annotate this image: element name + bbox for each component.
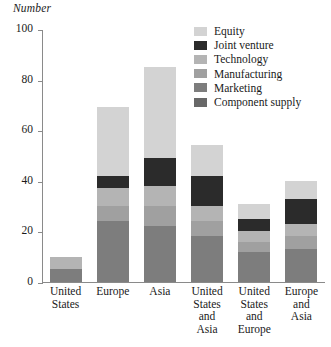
y-axis-tick-label: 20 — [22, 224, 34, 236]
legend-item: Technology — [194, 52, 301, 66]
y-axis-tick: 80 — [38, 81, 43, 82]
y-axis-tick-label: 40 — [22, 174, 34, 186]
legend-label: Technology — [214, 53, 268, 65]
bar-stack — [238, 204, 270, 282]
legend-label: Component supply — [214, 96, 301, 108]
bar-segment — [238, 252, 270, 282]
bar-segment — [285, 236, 317, 249]
bar-segment — [285, 224, 317, 237]
x-axis-category-label: United States and Asia — [184, 285, 231, 335]
y-axis-tick: 20 — [38, 232, 43, 233]
bar-segment — [285, 199, 317, 224]
x-axis-category-label: United States and Europe — [231, 285, 278, 335]
bar-segment — [144, 186, 176, 206]
y-axis-tick: 40 — [38, 182, 43, 183]
legend-swatch-icon — [194, 41, 207, 50]
y-axis-tick: 100 — [38, 30, 43, 31]
y-axis-line — [42, 30, 43, 283]
bar-stack — [144, 67, 176, 282]
y-axis-tick: 0 — [38, 283, 43, 284]
bar-segment — [144, 67, 176, 158]
chart-legend: EquityJoint ventureTechnologyManufacturi… — [194, 24, 301, 109]
bar-segment — [191, 145, 223, 175]
x-axis-category-label: Asia — [136, 285, 183, 298]
y-axis-tick-label: 100 — [16, 22, 33, 34]
x-axis-category-label: Europe and Asia — [278, 285, 325, 323]
stacked-bar-chart: Number 020406080100 United StatesEuropeA… — [0, 0, 331, 347]
legend-item: Marketing — [194, 81, 301, 95]
legend-swatch-icon — [194, 83, 207, 92]
legend-swatch-icon — [194, 55, 207, 64]
legend-label: Joint venture — [214, 39, 274, 51]
y-axis-tick-label: 80 — [22, 73, 34, 85]
legend-item: Component supply — [194, 95, 301, 109]
bar-segment — [238, 242, 270, 252]
y-axis-tick-label: 0 — [27, 275, 33, 287]
x-axis-category-label: United States — [42, 285, 89, 310]
legend-label: Manufacturing — [214, 68, 282, 80]
bar-stack — [97, 107, 129, 282]
bar-segment — [97, 188, 129, 206]
legend-item: Manufacturing — [194, 67, 301, 81]
y-axis-tick-label: 60 — [22, 123, 34, 135]
bar-segment — [191, 176, 223, 206]
bar-segment — [144, 206, 176, 226]
y-axis-tick: 60 — [38, 131, 43, 132]
legend-swatch-icon — [194, 27, 207, 36]
bar-segment — [50, 269, 82, 282]
bar-segment — [144, 158, 176, 186]
legend-label: Marketing — [214, 82, 262, 94]
legend-swatch-icon — [194, 98, 207, 107]
legend-swatch-icon — [194, 69, 207, 78]
bar-segment — [238, 231, 270, 241]
bar-stack — [50, 257, 82, 282]
bar-stack — [191, 145, 223, 282]
x-axis-line — [42, 282, 325, 283]
bar-segment — [285, 181, 317, 199]
y-axis-title: Number — [13, 2, 51, 14]
bar-segment — [97, 221, 129, 282]
bar-segment — [238, 219, 270, 232]
bar-segment — [191, 221, 223, 236]
legend-label: Equity — [214, 25, 245, 37]
bar-segment — [144, 226, 176, 282]
legend-item: Joint venture — [194, 38, 301, 52]
x-axis-category-label: Europe — [89, 285, 136, 298]
bar-segment — [97, 206, 129, 221]
bar-segment — [50, 257, 82, 270]
bar-segment — [191, 236, 223, 282]
legend-item: Equity — [194, 24, 301, 38]
bar-stack — [285, 181, 317, 282]
bar-segment — [238, 204, 270, 219]
bar-segment — [285, 249, 317, 282]
bar-segment — [97, 176, 129, 189]
bar-segment — [97, 107, 129, 175]
bar-segment — [191, 206, 223, 221]
